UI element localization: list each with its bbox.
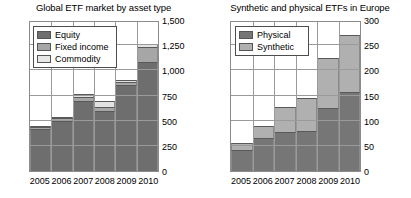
x-tick-label: 2005 <box>29 176 51 190</box>
x-tick-label: 2006 <box>51 176 73 190</box>
bar-segment-synthetic <box>296 98 318 131</box>
x-tick-label: 2006 <box>252 176 274 190</box>
y-tick-label: 150 <box>364 92 379 102</box>
y-tick-label: 1,250 <box>162 41 185 51</box>
bar-segment-physical <box>231 150 253 171</box>
y-tick-label: 0 <box>364 167 369 177</box>
legend-item-commodity: Commodity <box>37 53 112 65</box>
y-axis-labels-right: 050100150200250300 <box>364 21 406 172</box>
legend-right: PhysicalSynthetic <box>235 26 309 56</box>
y-tick-label: 250 <box>364 41 379 51</box>
y-tick-label: 0 <box>162 167 167 177</box>
legend-swatch-icon <box>37 31 51 39</box>
legend-item-physical: Physical <box>239 29 304 41</box>
bar-segment-physical <box>317 108 339 171</box>
bar-segment-synthetic <box>317 58 339 108</box>
y-tick-label: 50 <box>364 142 374 152</box>
legend-label: Synthetic <box>257 42 294 52</box>
legend-label: Physical <box>257 30 291 40</box>
y-tick-label: 100 <box>364 117 379 127</box>
x-tick-label: 2007 <box>72 176 94 190</box>
bar-segment-equity <box>115 85 136 171</box>
chart-title-right: Synthetic and physical ETFs in Europe <box>205 2 411 13</box>
chart-title-left: Global ETF market by asset type <box>0 2 205 13</box>
legend-item-equity: Equity <box>37 29 112 41</box>
bar-segment-physical <box>253 138 275 171</box>
x-tick-label: 2010 <box>137 176 159 190</box>
legend-label: Equity <box>55 30 80 40</box>
bar-segment-physical <box>274 132 296 171</box>
y-tick-label: 1,500 <box>162 16 185 26</box>
y-tick-label: 200 <box>364 66 379 76</box>
legend-swatch-icon <box>37 55 51 63</box>
legend-label: Fixed income <box>55 42 109 52</box>
x-tick-label: 2005 <box>230 176 252 190</box>
bar-segment-equity <box>30 129 51 171</box>
legend-item-fixed-income: Fixed income <box>37 41 112 53</box>
gridline-vertical <box>339 22 340 171</box>
y-tick-label: 250 <box>162 142 177 152</box>
x-tick-label: 2008 <box>295 176 317 190</box>
legend-swatch-icon <box>239 43 253 51</box>
x-tick-label: 2007 <box>274 176 296 190</box>
y-tick-label: 500 <box>162 117 177 127</box>
chart-panel-global-etf: Global ETF market by asset type 02505007… <box>0 0 205 198</box>
chart-panel-synthetic-physical: Synthetic and physical ETFs in Europe 05… <box>205 0 411 198</box>
x-tick-label: 2009 <box>116 176 138 190</box>
legend-left: EquityFixed incomeCommodity <box>33 26 117 68</box>
x-axis-labels-right: 200520062007200820092010 <box>230 176 361 190</box>
y-axis-labels-left: 02505007501,0001,2501,500 <box>162 21 204 172</box>
bar-segment-fixed-income <box>137 47 158 62</box>
gridline-vertical <box>137 22 138 171</box>
bar-segment-physical <box>296 131 318 171</box>
legend-swatch-icon <box>239 31 253 39</box>
legend-label: Commodity <box>55 54 101 64</box>
bar-segment-synthetic <box>253 126 275 139</box>
y-tick-label: 750 <box>162 92 177 102</box>
x-tick-label: 2009 <box>317 176 339 190</box>
y-tick-label: 300 <box>364 16 379 26</box>
bar-segment-physical <box>339 92 361 171</box>
x-tick-label: 2008 <box>94 176 116 190</box>
gridline-vertical <box>317 22 318 171</box>
x-tick-label: 2010 <box>339 176 361 190</box>
x-axis-labels-left: 200520062007200820092010 <box>29 176 159 190</box>
y-tick-label: 1,000 <box>162 66 185 76</box>
two-chart-figure: Global ETF market by asset type 02505007… <box>0 0 411 198</box>
legend-swatch-icon <box>37 43 51 51</box>
bar-segment-equity <box>73 101 94 171</box>
legend-item-synthetic: Synthetic <box>239 41 304 53</box>
bar-segment-equity <box>137 62 158 171</box>
